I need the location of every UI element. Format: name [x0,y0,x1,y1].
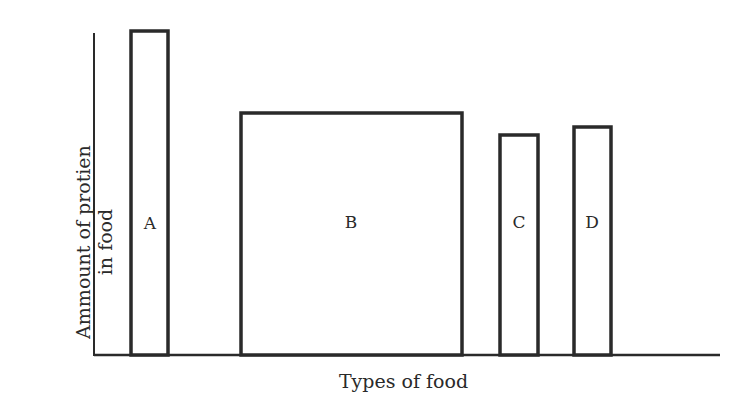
bar-label-a: A [144,213,156,233]
y-axis-label-line-2: in food [94,92,116,392]
bar-b [241,113,462,355]
bar-d [574,127,611,355]
y-axis-label-line-1: Ammount of protien [72,92,94,392]
x-axis-label: Types of food [0,370,743,392]
bar-label-d: D [585,212,599,232]
bar-label-c: C [512,212,525,232]
bar-c [500,135,538,355]
bar-label-b: B [345,212,358,232]
bar-a [131,31,168,355]
x-axis-label-text: Types of food [339,370,468,392]
y-axis-label: Ammount of protien in food [72,92,116,392]
